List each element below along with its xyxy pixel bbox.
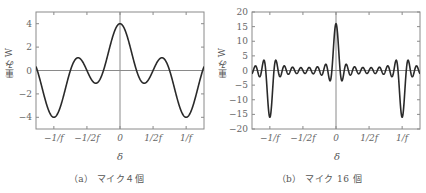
x-tick-label: 1/f — [396, 133, 410, 143]
y-tick-label: −20 — [229, 124, 248, 134]
y-tick-label: 5 — [242, 51, 248, 61]
chart-a-plot: −4−2024−1/f−1/2f01/2f1/f — [0, 0, 213, 193]
panel-a-four-mics: −4−2024−1/f−1/2f01/2f1/f 重み W δ （a） マイク４… — [0, 0, 213, 193]
y-tick-label: 4 — [26, 19, 32, 29]
y-tick-label: −5 — [235, 80, 249, 90]
y-tick-label: 2 — [26, 42, 32, 52]
x-tick-label: 0 — [117, 133, 123, 143]
x-tick-label: 0 — [333, 133, 339, 143]
x-tick-label: 1/2f — [144, 133, 163, 143]
chart-b-plot: −20−15−10−505101520−1/f−1/2f01/2f1/f — [213, 0, 426, 193]
x-tick-label: −1/2f — [290, 133, 317, 143]
x-tick-label: −1/f — [44, 133, 65, 143]
y-tick-label: 0 — [26, 66, 32, 76]
y-tick-label: −10 — [229, 95, 248, 105]
panel-b-sixteen-mics: −20−15−10−505101520−1/f−1/2f01/2f1/f 重み … — [213, 0, 426, 193]
x-axis-label-a: δ — [117, 151, 123, 162]
x-tick-label: 1/f — [180, 133, 194, 143]
y-tick-label: −15 — [229, 109, 248, 119]
y-tick-label: 20 — [237, 7, 249, 17]
x-tick-label: 1/2f — [360, 133, 379, 143]
x-tick-label: −1/f — [260, 133, 281, 143]
y-tick-label: −4 — [19, 112, 33, 122]
caption-b: （b） マイク 16 個 — [213, 172, 426, 185]
y-tick-label: 0 — [242, 66, 248, 76]
x-tick-label: −1/2f — [74, 133, 101, 143]
y-tick-label: 15 — [237, 22, 249, 32]
y-tick-label: 10 — [237, 36, 249, 46]
x-axis-label-b: δ — [334, 151, 340, 162]
y-axis-label-a: 重み W — [2, 48, 15, 78]
y-axis-label-b: 重み W — [215, 48, 228, 78]
y-tick-label: −2 — [19, 89, 32, 99]
caption-a: （a） マイク４個 — [0, 172, 213, 185]
